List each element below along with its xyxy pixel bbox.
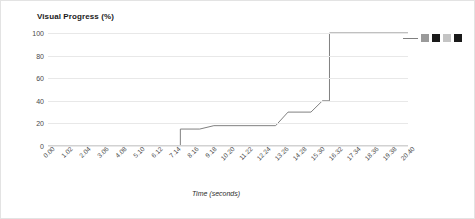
gridline bbox=[48, 123, 408, 124]
legend-line-sample bbox=[403, 38, 418, 39]
legend-swatch-1 bbox=[421, 34, 429, 42]
x-axis-tick-label: 17.34 bbox=[342, 148, 358, 164]
chart-title: Visual Progress (%) bbox=[37, 12, 114, 21]
x-axis-tick-label: 15.30 bbox=[306, 148, 322, 164]
x-axis-tick-label: 5.10 bbox=[129, 148, 143, 162]
y-axis-tick-label: 20 bbox=[36, 120, 44, 127]
x-axis-tick-label: 4.08 bbox=[111, 148, 125, 162]
y-axis: 020406080100 bbox=[21, 33, 44, 146]
x-axis-tick-label: 13.26 bbox=[270, 148, 286, 164]
x-axis-tick-label: 7.14 bbox=[165, 148, 179, 162]
x-axis-tick-label: 20.40 bbox=[396, 148, 412, 164]
x-axis: 0.001.022.043.064.085.106.127.148.169.18… bbox=[48, 148, 408, 188]
x-axis-tick-label: 0.00 bbox=[39, 148, 53, 162]
gridline bbox=[48, 56, 408, 57]
x-axis-tick-label: 14.28 bbox=[288, 148, 304, 164]
x-axis-tick-label: 16.32 bbox=[324, 148, 340, 164]
x-axis-tick-label: 1.02 bbox=[57, 148, 71, 162]
gridline bbox=[48, 101, 408, 102]
x-axis-tick-label: 2.04 bbox=[75, 148, 89, 162]
legend-swatch-3 bbox=[443, 34, 451, 42]
chart-legend bbox=[403, 32, 462, 44]
x-axis-label: Time (seconds) bbox=[1, 190, 431, 197]
y-axis-tick-label: 60 bbox=[36, 75, 44, 82]
gridline bbox=[48, 78, 408, 79]
x-axis-tick-label: 8.16 bbox=[183, 148, 197, 162]
x-axis-tick-label: 10.20 bbox=[216, 148, 232, 164]
legend-swatch-2 bbox=[432, 34, 440, 42]
plot-area bbox=[48, 33, 408, 146]
x-axis-tick-label: 3.06 bbox=[93, 148, 107, 162]
progress-series bbox=[48, 33, 408, 146]
gridline bbox=[48, 33, 408, 34]
series-line bbox=[48, 33, 408, 146]
x-axis-tick-label: 18.36 bbox=[360, 148, 376, 164]
chart-container: Visual Progress (%) 020406080100 0.001.0… bbox=[0, 0, 475, 219]
x-axis-tick-label: 9.18 bbox=[201, 148, 215, 162]
y-axis-tick-label: 40 bbox=[36, 97, 44, 104]
y-axis-tick-label: 0 bbox=[40, 143, 44, 150]
y-axis-tick-label: 80 bbox=[36, 52, 44, 59]
x-axis-tick-label: 19.38 bbox=[378, 148, 394, 164]
legend-swatch-4 bbox=[454, 34, 462, 42]
x-axis-tick-label: 12.24 bbox=[252, 148, 268, 164]
x-axis-tick-label: 11.22 bbox=[235, 148, 251, 164]
y-axis-tick-label: 100 bbox=[32, 30, 44, 37]
x-axis-tick-label: 6.12 bbox=[147, 148, 161, 162]
